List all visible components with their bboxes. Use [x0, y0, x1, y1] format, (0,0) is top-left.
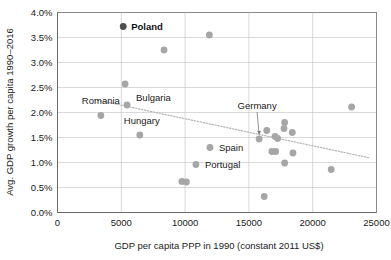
x-axis-tick-labels: 0500010000150002000025000 [55, 217, 390, 228]
data-point [281, 160, 288, 167]
x-tick-label: 20000 [299, 217, 325, 228]
chart-canvas: PolandBulgariaRomaniaHungaryGermanySpain… [0, 0, 391, 260]
point-label-romania: Romania [82, 95, 121, 106]
scatter-chart: PolandBulgariaRomaniaHungaryGermanySpain… [0, 0, 391, 260]
y-tick-label: 3.5% [31, 32, 53, 43]
data-point [348, 104, 355, 111]
data-point [120, 23, 127, 30]
y-tick-label: 4.0% [31, 7, 53, 18]
y-tick-label: 2.0% [31, 107, 53, 118]
data-point [124, 102, 131, 109]
data-point [161, 47, 168, 54]
point-label-poland: Poland [131, 21, 163, 32]
data-point [281, 119, 288, 126]
point-label-hungary: Hungary [124, 115, 160, 126]
x-axis-title: GDP per capita PPP in 1990 (constant 201… [114, 240, 323, 251]
y-tick-label: 0.5% [31, 182, 53, 193]
y-tick-label: 1.5% [31, 132, 53, 143]
data-points [97, 23, 355, 200]
data-point [97, 112, 104, 119]
data-point [207, 144, 214, 151]
point-label-portugal: Portugal [205, 159, 240, 170]
y-axis-tick-labels: 0.0%0.5%1.0%1.5%2.0%2.5%3.0%3.5%4.0% [31, 7, 53, 218]
data-point [290, 150, 297, 157]
data-point [256, 136, 263, 143]
data-point [272, 148, 279, 155]
data-point [328, 166, 335, 173]
y-axis-title: Avg. GDP growth per capita 1990–2016 [4, 28, 15, 196]
point-label-bulgaria: Bulgaria [136, 92, 172, 103]
data-point [289, 129, 296, 136]
x-tick-label: 5000 [111, 217, 132, 228]
y-tick-label: 1.0% [31, 157, 53, 168]
x-tick-label: 10000 [172, 217, 198, 228]
x-tick-label: 0 [55, 217, 60, 228]
y-tick-label: 0.0% [31, 207, 53, 218]
data-point [281, 125, 288, 132]
y-tick-label: 2.5% [31, 82, 53, 93]
data-point [136, 132, 143, 139]
x-tick-label: 15000 [236, 217, 262, 228]
label-leader-lines [257, 112, 261, 135]
x-tick-label: 25000 [363, 217, 389, 228]
data-point [274, 135, 281, 142]
data-point [261, 193, 268, 200]
data-point [183, 179, 190, 186]
data-point [122, 81, 129, 88]
point-label-germany: Germany [238, 100, 277, 111]
data-point [263, 127, 270, 134]
data-point [193, 161, 200, 168]
data-point [206, 32, 213, 39]
gridlines [58, 13, 377, 213]
point-labels: PolandBulgariaRomaniaHungaryGermanySpain… [82, 21, 277, 170]
y-tick-label: 3.0% [31, 57, 53, 68]
point-label-spain: Spain [219, 142, 243, 153]
